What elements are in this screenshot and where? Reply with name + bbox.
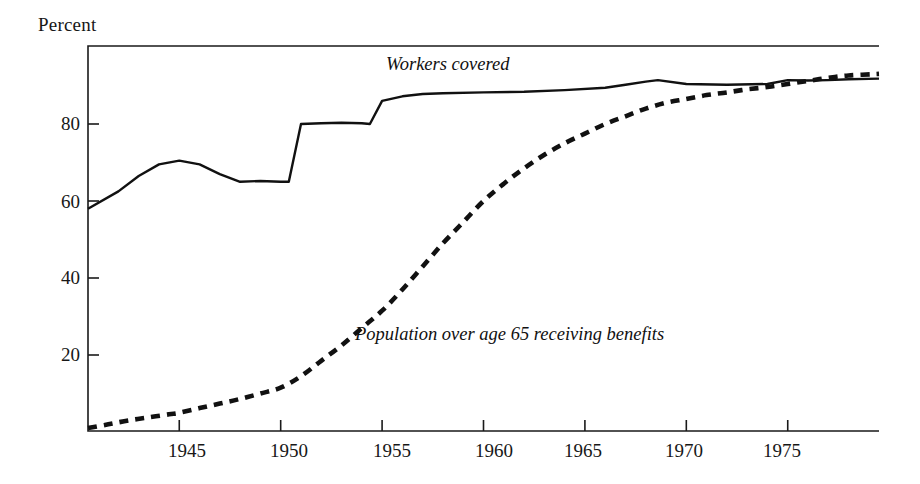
axis-frame [88, 46, 879, 431]
chart-figure: Percent 80 60 40 20 1945 1950 1955 1960 … [0, 0, 920, 484]
series-line-workers-covered [88, 79, 879, 209]
y-tick-marks [88, 124, 99, 355]
series-line-population-over-65 [88, 74, 879, 428]
plot-area [0, 0, 920, 484]
x-tick-marks [179, 420, 787, 431]
